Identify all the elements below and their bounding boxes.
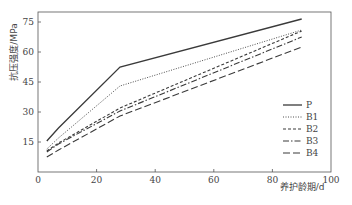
y-tick-label: 15 <box>23 137 35 147</box>
legend-label: B3 <box>306 136 319 146</box>
series-line-p <box>47 19 302 141</box>
series-line-b2 <box>47 31 302 151</box>
legend-label: B1 <box>306 112 318 122</box>
legend-item-p: P <box>283 100 312 110</box>
y-axis-title: 抗压强度/MPa <box>8 23 19 80</box>
x-tick-label: 40 <box>149 175 161 185</box>
x-axis-title: 养护龄期/d <box>280 181 325 192</box>
y-tick-label: 45 <box>23 77 35 87</box>
legend-label: P <box>306 100 312 110</box>
legend-item-b3: B3 <box>283 136 319 146</box>
line-chart: 1530456075 020406080100 PB1B2B3B4 抗压强度/M… <box>0 0 352 205</box>
y-tick-label: 30 <box>23 107 35 117</box>
series-lines <box>47 19 302 157</box>
legend-label: B4 <box>306 148 319 158</box>
x-tick-label: 100 <box>322 175 339 185</box>
y-tick-label: 75 <box>23 17 35 27</box>
legend-item-b1: B1 <box>283 112 318 122</box>
series-line-b1 <box>47 30 302 149</box>
legend-item-b2: B2 <box>283 124 318 134</box>
legend: PB1B2B3B4 <box>283 100 319 158</box>
x-tick-label: 0 <box>35 175 41 185</box>
legend-item-b4: B4 <box>283 148 319 158</box>
y-tick-label: 60 <box>23 47 35 57</box>
x-tick-label: 80 <box>267 175 279 185</box>
x-tick-label: 20 <box>91 175 103 185</box>
x-tick-label: 60 <box>208 175 220 185</box>
legend-label: B2 <box>306 124 318 134</box>
